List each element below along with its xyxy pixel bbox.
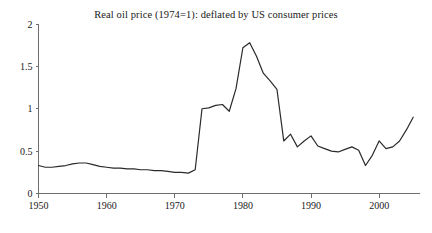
y-tick-label-0: 0: [28, 188, 33, 199]
y-tick-label-0.5: 0.5: [20, 146, 33, 157]
x-tick-marks: [39, 194, 380, 198]
x-axis: 195019601970198019902000: [29, 194, 421, 211]
series-line-real-oil-price: [39, 43, 414, 174]
y-tick-label-2: 2: [28, 19, 33, 30]
x-tick-labels: 195019601970198019902000: [29, 200, 390, 211]
x-tick-label-1950: 1950: [29, 200, 49, 211]
y-tick-labels: 00.511.52: [20, 19, 33, 200]
chart-figure: Real oil price (1974=1): deflated by US …: [0, 0, 432, 233]
x-tick-label-1990: 1990: [301, 200, 321, 211]
line-chart-plot: 00.511.52 195019601970198019902000: [0, 0, 432, 233]
x-tick-label-1960: 1960: [97, 200, 117, 211]
y-tick-label-1: 1: [28, 103, 33, 114]
y-tick-label-1.5: 1.5: [20, 61, 33, 72]
y-axis: 00.511.52: [20, 19, 39, 200]
x-tick-label-1970: 1970: [165, 200, 185, 211]
x-tick-label-2000: 2000: [369, 200, 389, 211]
x-tick-label-1980: 1980: [233, 200, 253, 211]
